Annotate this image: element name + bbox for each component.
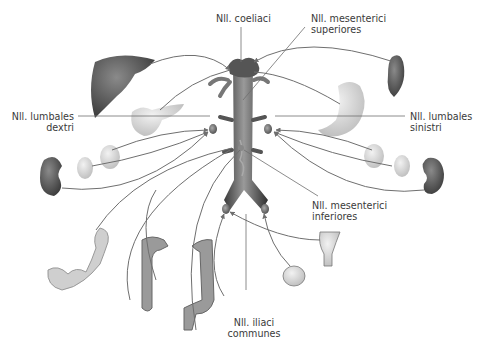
- node-mesenteric-inferior: [238, 145, 244, 151]
- gonad-right: [100, 145, 120, 169]
- lymph-drainage-diagram: Nll. coeliaci Nll. mesenterici superiore…: [0, 0, 483, 351]
- uterus: [320, 232, 341, 266]
- label-nll-mesenterici-superiores: Nll. mesenterici superiores: [311, 13, 386, 35]
- label-nll-lumbales-sinistri: Nll. lumbales sinistri: [410, 111, 472, 133]
- adrenal-left: [394, 155, 410, 177]
- node-iliac-right: [222, 204, 230, 214]
- kidney-left: [423, 158, 444, 194]
- diagram-artwork: [0, 0, 483, 351]
- node-iliac-left: [261, 204, 269, 214]
- descending-colon: [184, 240, 214, 330]
- stomach: [318, 82, 365, 136]
- ascending-colon: [142, 237, 168, 311]
- label-nll-coeliaci: Nll. coeliaci: [216, 13, 271, 24]
- bladder: [283, 266, 305, 286]
- label-nll-iliaci-communes: Nll. iliaci communes: [226, 317, 282, 339]
- spleen: [388, 55, 405, 97]
- small-intestine: [48, 228, 109, 290]
- node-lumbar-right: [209, 124, 217, 134]
- pancreas: [131, 104, 184, 136]
- adrenal-right: [77, 157, 93, 179]
- label-nll-lumbales-dextri: Nll. lumbales dextri: [4, 111, 74, 133]
- node-lumbar-left: [264, 124, 272, 134]
- label-nll-mesenterici-inferiores: Nll. mesenterici inferiores: [312, 200, 387, 222]
- kidney-right: [40, 157, 62, 196]
